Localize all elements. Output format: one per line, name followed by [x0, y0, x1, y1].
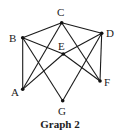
node-label-A: A [11, 86, 19, 98]
graph-diagram: ABCDEFG Graph 2 [0, 0, 120, 132]
node-G [61, 99, 65, 103]
node-B [21, 36, 25, 40]
graph-caption: Graph 2 [40, 118, 80, 130]
edge-A-C [23, 23, 62, 90]
edge-A-E [23, 54, 64, 89]
edge-E-F [63, 54, 100, 81]
node-label-E: E [58, 40, 65, 52]
node-label-B: B [9, 32, 16, 44]
node-label-G: G [58, 105, 66, 117]
edge-D-F [100, 33, 102, 81]
node-label-D: D [106, 27, 114, 39]
node-D [100, 32, 104, 36]
node-C [60, 21, 64, 25]
node-label-C: C [57, 6, 64, 18]
edge-B-C [23, 23, 62, 38]
node-label-F: F [104, 76, 110, 88]
edge-B-G [23, 38, 63, 101]
node-A [21, 88, 25, 92]
graph-edges [23, 23, 102, 101]
node-E [62, 52, 66, 56]
node-F [98, 79, 102, 83]
